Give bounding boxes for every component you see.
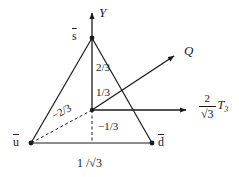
vertex-dot-sbar [90, 36, 95, 41]
annotation-base-half-width: 1 /√3 [77, 157, 102, 169]
vertex-dot-ubar [29, 141, 34, 146]
charge-axis-label: Q [184, 44, 193, 57]
vertex-dot-dbar [150, 141, 155, 146]
isospin-fraction-denominator: √3 [199, 108, 216, 121]
isospin-axis-label: 2 √3 T3 [199, 93, 228, 120]
origin-dot [90, 108, 94, 112]
vertex-label-dbar: d [158, 136, 164, 148]
annotation-y-two-thirds: 2/3 [96, 62, 110, 73]
annotation-y-minus-one-third: −1/3 [98, 121, 118, 132]
annotation-y-one-third: 1/3 [96, 87, 110, 98]
base-width-radical: √3 [89, 156, 102, 170]
vertex-label-ubar: u [13, 136, 19, 148]
isospin-symbol: T3 [218, 99, 229, 114]
isospin-scale-fraction: 2 √3 [199, 93, 216, 120]
vertex-label-sbar: s [72, 30, 77, 42]
triangle-edge-sbar-ubar [31, 38, 92, 143]
isospin-fraction-numerator: 2 [203, 93, 213, 105]
isospin-subscript: 3 [224, 105, 228, 114]
diagram-canvas [0, 0, 239, 177]
hypercharge-axis-label: Y [99, 6, 106, 19]
su3-antiquark-weight-diagram: s u d Y Q 2 √3 T3 2/3 1/3 −1/3 −2/3 1 /√… [0, 0, 239, 177]
